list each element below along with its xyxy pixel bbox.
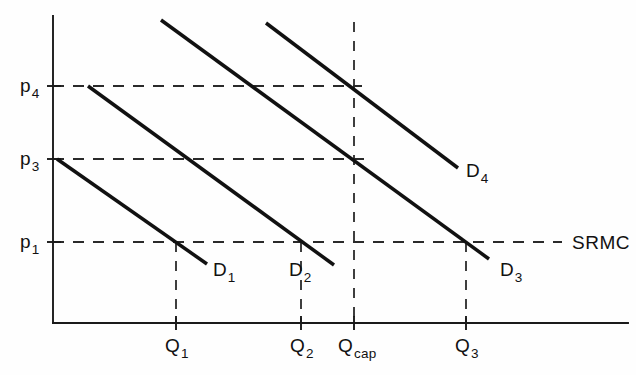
axes-group	[53, 16, 628, 323]
quantity-label-q3: Q3	[455, 335, 479, 361]
demand-curves-group	[57, 20, 489, 265]
quantity-label-qcap: Qcap	[338, 335, 376, 361]
demand-curve-d1	[57, 159, 207, 264]
price-label-p1: p1	[20, 231, 40, 257]
y-axis-ticks-group	[47, 86, 61, 242]
chart-canvas: p4 p3 p1 Q1 Q2 Qcap Q3	[0, 0, 636, 375]
demand-curve-d3	[161, 20, 489, 259]
demand-curve-d4	[266, 23, 458, 168]
quantity-label-q2: Q2	[290, 335, 314, 361]
curve-labels-group: D1 D2 D3 D4	[213, 160, 522, 285]
price-labels-group: p4 p3 p1	[20, 75, 40, 257]
quantity-labels-group: Q1 Q2 Qcap Q3	[165, 335, 479, 361]
price-label-p4: p4	[20, 75, 40, 101]
curve-label-d1: D1	[213, 259, 235, 285]
curve-label-d4: D4	[466, 160, 489, 186]
demand-curve-d2	[88, 86, 334, 265]
supply-demand-diagram: p4 p3 p1 Q1 Q2 Qcap Q3	[0, 0, 636, 375]
price-guides-group	[53, 86, 562, 242]
srmc-label: SRMC	[572, 232, 630, 253]
price-label-p3: p3	[20, 148, 40, 174]
quantity-label-q1: Q1	[165, 335, 189, 361]
curve-label-d3: D3	[500, 259, 522, 285]
